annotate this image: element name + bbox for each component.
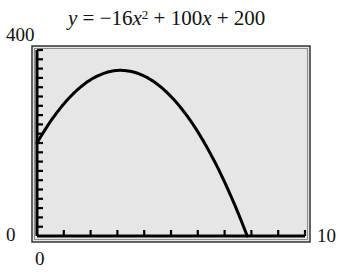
plot-area xyxy=(0,0,351,273)
plot-frame xyxy=(32,46,310,242)
